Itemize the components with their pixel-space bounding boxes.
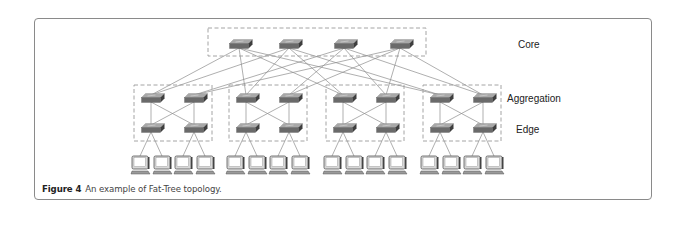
edge-host-link xyxy=(483,132,494,156)
core-layer-label: Core xyxy=(518,39,540,50)
switch-front-face xyxy=(334,128,353,133)
edge-host-link xyxy=(235,132,246,156)
monitor-screen xyxy=(326,158,338,167)
switch-front-face xyxy=(474,98,493,103)
keyboard-icon xyxy=(153,171,172,174)
edge-switch-p4-2 xyxy=(474,124,497,133)
monitor-side xyxy=(148,157,150,169)
core-switch-1 xyxy=(230,40,253,49)
monitor-screen xyxy=(134,158,146,167)
monitor-side xyxy=(383,157,385,169)
monitor-side xyxy=(286,157,288,169)
monitor-screen xyxy=(391,158,403,167)
monitor-screen xyxy=(229,158,241,167)
keyboard-icon xyxy=(269,171,288,174)
monitor-side xyxy=(243,157,245,169)
monitor-side xyxy=(459,157,461,169)
keyboard-icon xyxy=(291,171,310,174)
host-p4-e2-2 xyxy=(485,156,504,174)
core-agg-link xyxy=(386,48,400,95)
keyboard-icon xyxy=(463,171,482,174)
monitor-screen xyxy=(251,158,263,167)
aggregation-switch-p1-1 xyxy=(142,94,165,103)
host-p1-e1-2 xyxy=(153,156,172,174)
aggregation-switch-p3-2 xyxy=(377,94,400,103)
keyboard-icon xyxy=(323,171,342,174)
monitor-side xyxy=(405,157,407,169)
monitor-side xyxy=(265,157,267,169)
edge-host-link xyxy=(151,132,162,156)
host-p4-e1-1 xyxy=(420,156,439,174)
host-p3-e1-1 xyxy=(323,156,342,174)
host-p1-e2-1 xyxy=(174,156,193,174)
figure-caption: Figure 4An example of Fat-Tree topology. xyxy=(42,184,222,194)
monitor-screen xyxy=(199,158,211,167)
switch-front-face xyxy=(335,44,354,49)
host-p1-e1-1 xyxy=(131,156,150,174)
core-switch-4 xyxy=(391,40,414,49)
monitor-side xyxy=(213,157,215,169)
aggregation-switch-p2-1 xyxy=(237,94,260,103)
monitor-screen xyxy=(177,158,189,167)
switch-front-face xyxy=(185,98,204,103)
monitor-screen xyxy=(156,158,168,167)
monitor-screen xyxy=(369,158,381,167)
host-p2-e2-1 xyxy=(269,156,288,174)
monitor-side xyxy=(362,157,364,169)
switch-front-face xyxy=(334,98,353,103)
keyboard-icon xyxy=(388,171,407,174)
monitor-screen xyxy=(445,158,457,167)
edge-switch-p3-1 xyxy=(334,124,357,133)
core-agg-link xyxy=(289,48,400,95)
monitor-screen xyxy=(488,158,500,167)
switch-front-face xyxy=(142,98,161,103)
monitor-screen xyxy=(423,158,435,167)
edge-switch-p4-1 xyxy=(431,124,454,133)
switch-front-face xyxy=(377,98,396,103)
host-p3-e2-1 xyxy=(366,156,385,174)
keyboard-icon xyxy=(345,171,364,174)
edge-host-link xyxy=(343,132,354,156)
edge-host-link xyxy=(194,132,205,156)
switch-front-face xyxy=(431,98,450,103)
monitor-side xyxy=(308,157,310,169)
monitor-side xyxy=(170,157,172,169)
edge-host-link xyxy=(183,132,194,156)
host-p4-e1-2 xyxy=(442,156,461,174)
edge-host-link xyxy=(472,132,483,156)
monitor-screen xyxy=(272,158,284,167)
edge-switch-p3-2 xyxy=(377,124,400,133)
switch-front-face xyxy=(280,44,299,49)
keyboard-icon xyxy=(485,171,504,174)
edge-host-link xyxy=(386,132,397,156)
keyboard-icon xyxy=(226,171,245,174)
switch-front-face xyxy=(391,44,410,49)
monitor-side xyxy=(502,157,504,169)
aggregation-layer-label: Aggregation xyxy=(507,93,561,104)
aggregation-switch-p4-2 xyxy=(474,94,497,103)
core-agg-link xyxy=(239,48,246,95)
host-p3-e1-2 xyxy=(345,156,364,174)
host-p2-e2-2 xyxy=(291,156,310,174)
edge-host-link xyxy=(440,132,451,156)
monitor-side xyxy=(480,157,482,169)
keyboard-icon xyxy=(420,171,439,174)
switch-front-face xyxy=(185,128,204,133)
network-nodes xyxy=(131,40,504,175)
switch-front-face xyxy=(237,98,256,103)
host-p2-e1-2 xyxy=(248,156,267,174)
host-p1-e2-2 xyxy=(196,156,215,174)
core-switch-3 xyxy=(335,40,358,49)
monitor-screen xyxy=(348,158,360,167)
host-p2-e1-1 xyxy=(226,156,245,174)
monitor-side xyxy=(437,157,439,169)
core-agg-link xyxy=(239,48,343,95)
aggregation-switch-p4-1 xyxy=(431,94,454,103)
figure-number: Figure 4 xyxy=(42,184,81,194)
edge-host-link xyxy=(332,132,343,156)
switch-front-face xyxy=(474,128,493,133)
keyboard-icon xyxy=(248,171,267,174)
monitor-screen xyxy=(294,158,306,167)
aggregation-switch-p2-2 xyxy=(280,94,303,103)
aggregation-switch-p1-2 xyxy=(185,94,208,103)
